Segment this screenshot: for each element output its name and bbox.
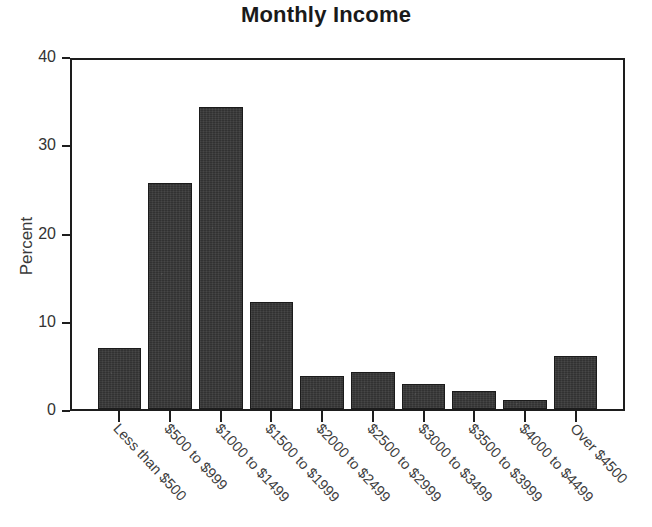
x-axis-label-slot: $2000 to $2499 [297, 424, 348, 524]
y-axis-tick-label: 10 [22, 313, 56, 331]
y-axis-tick-label: 20 [22, 225, 56, 243]
y-axis-tick [62, 322, 70, 324]
x-axis-labels: Less than $500$500 to $999$1000 to $1499… [72, 424, 623, 524]
x-axis-label-slot: $500 to $999 [145, 424, 196, 524]
y-axis-tick-label: 40 [22, 48, 56, 66]
bar-slot [145, 60, 196, 409]
bar-slot [550, 60, 601, 409]
chart-title: Monthly Income [0, 2, 652, 28]
x-axis-tick [372, 411, 374, 422]
bar-slot [500, 60, 551, 409]
x-axis-label-slot: $1000 to $1499 [195, 424, 246, 524]
y-axis-tick [62, 57, 70, 59]
bar [402, 384, 446, 409]
x-axis-label-slot: Over $4500 [550, 424, 601, 524]
bar-slot [348, 60, 399, 409]
x-axis-tick-slot [348, 411, 399, 423]
bar [351, 372, 395, 409]
bar-slot [398, 60, 449, 409]
x-axis-tick-slot [500, 411, 551, 423]
x-axis-tick [169, 411, 171, 422]
bar-slot [246, 60, 297, 409]
x-axis-tick [524, 411, 526, 422]
x-axis-tick [321, 411, 323, 422]
bar-slot [195, 60, 246, 409]
x-axis-tick-slot [550, 411, 601, 423]
bars-container [72, 60, 623, 409]
x-axis-label-slot: $2500 to $2999 [348, 424, 399, 524]
bar [250, 302, 294, 409]
x-axis-tick [220, 411, 222, 422]
x-axis-tick-slot [145, 411, 196, 423]
bar [199, 107, 243, 409]
bar [452, 391, 496, 409]
x-axis-label-slot: $3500 to $3999 [449, 424, 500, 524]
x-axis-tick [575, 411, 577, 422]
bar-slot [94, 60, 145, 409]
y-axis-tick [62, 145, 70, 147]
y-axis-tick [62, 234, 70, 236]
x-axis-tick [118, 411, 120, 422]
x-axis-tick-slot [398, 411, 449, 423]
x-axis-label-slot: $3000 to $3499 [398, 424, 449, 524]
bar [554, 356, 598, 409]
x-axis-tick-slot [195, 411, 246, 423]
bar [300, 376, 344, 409]
bar [98, 348, 142, 409]
bar [148, 183, 192, 409]
y-axis-tick-label: 0 [22, 401, 56, 419]
bar [503, 400, 547, 409]
x-axis-label-slot: Less than $500 [94, 424, 145, 524]
x-axis-tick [423, 411, 425, 422]
x-axis-label-slot: $4000 to $4499 [500, 424, 551, 524]
x-axis-label-slot: $1500 to $1999 [246, 424, 297, 524]
bar-chart: Monthly Income Percent 010203040 Less th… [0, 0, 652, 527]
y-axis-title: Percent [17, 191, 37, 301]
y-axis-tick-label: 30 [22, 136, 56, 154]
x-axis-label: Over $4500 [567, 420, 630, 486]
y-axis-tick [62, 410, 70, 412]
x-axis-ticks [72, 411, 623, 423]
x-axis-tick [473, 411, 475, 422]
bar-slot [297, 60, 348, 409]
bar-slot [449, 60, 500, 409]
